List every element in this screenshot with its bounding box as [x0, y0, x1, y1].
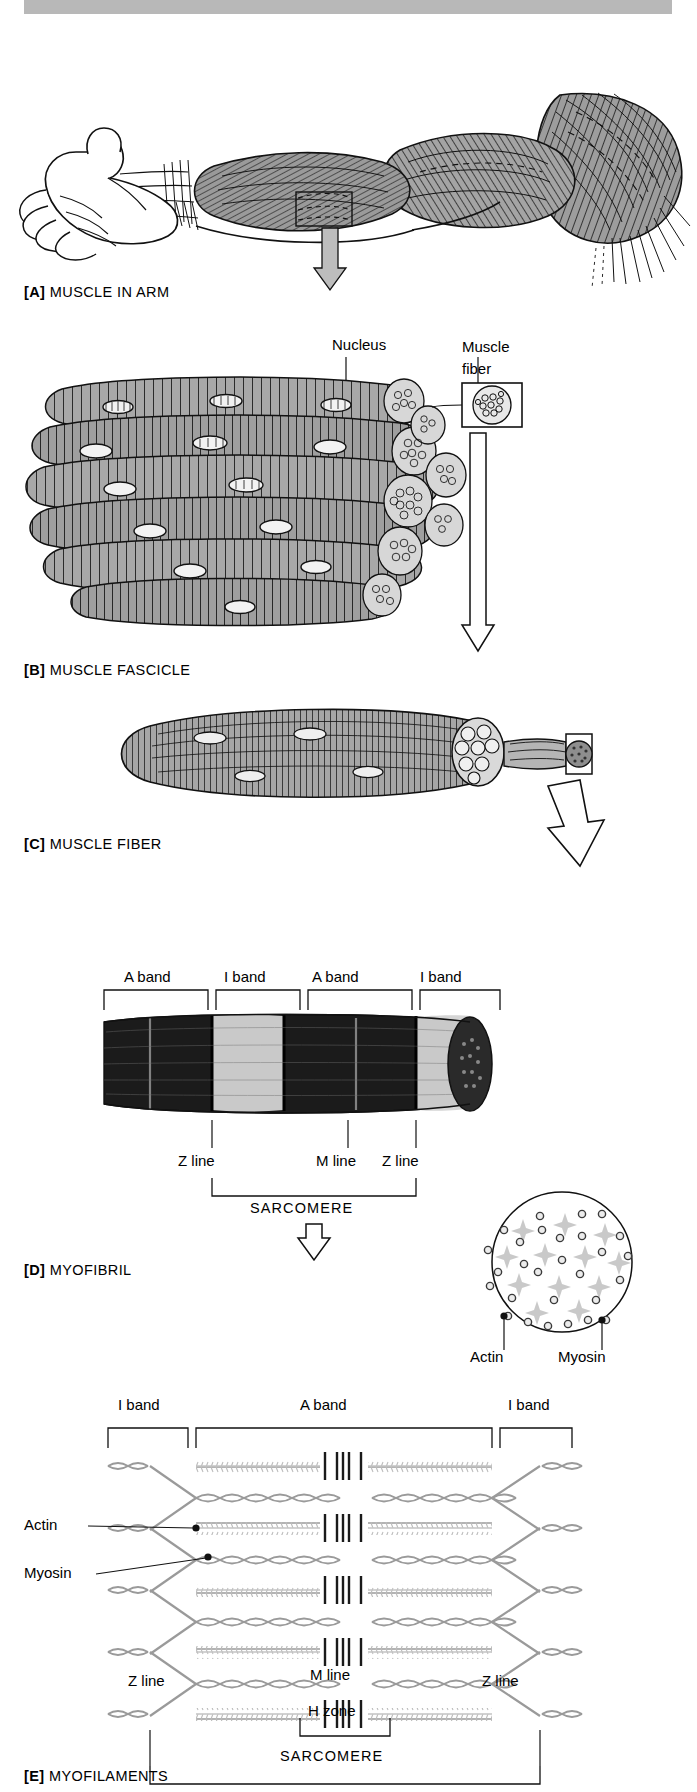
panel-a-figure: [0, 40, 697, 290]
cross-section-actin-label: Actin: [470, 1348, 503, 1365]
panel-d-sarcomere-bracket: [212, 1178, 416, 1196]
panel-d-m-line: M line: [316, 1152, 356, 1169]
panel-c-label: MUSCLE FIBER: [50, 836, 162, 852]
panel-d-figure: [0, 988, 697, 1218]
panel-e-figure: [0, 1418, 697, 1792]
panel-b-figure: [0, 355, 697, 665]
panel-e-sarcomere-label: SARCOMERE: [280, 1748, 383, 1764]
panel-d-brackets: [104, 990, 500, 1010]
panel-e-pointers: [88, 1524, 212, 1574]
panel-d-band-label-2: A band: [312, 968, 359, 985]
panel-d-band-label-0: A band: [124, 968, 171, 985]
panel-e-z-line-left: Z line: [128, 1672, 165, 1689]
cross-section-inset: [450, 1190, 697, 1360]
panel-e-brackets: [108, 1428, 572, 1448]
panel-d-sarcomere-label: SARCOMERE: [250, 1200, 353, 1216]
arrow-b-to-c: [462, 433, 494, 651]
panel-c-tag: [C]: [24, 836, 45, 852]
panel-a-label: MUSCLE IN ARM: [50, 284, 170, 300]
panel-d-label: MYOFIBRIL: [50, 1262, 132, 1278]
panel-e-actin-label: Actin: [24, 1516, 57, 1533]
panel-d-band-label-3: I band: [420, 968, 462, 985]
arrow-c-to-d: [548, 780, 604, 866]
panel-c-figure: [0, 690, 697, 920]
panel-b-label: MUSCLE FASCICLE: [50, 662, 191, 678]
panel-e-myosin-label: Myosin: [24, 1564, 72, 1581]
panel-e-band-label-0: I band: [118, 1396, 160, 1413]
panel-e-z-line-right: Z line: [482, 1672, 519, 1689]
myofibril-cylinder: [104, 1015, 492, 1114]
panel-e-h-zone-label: H zone: [308, 1702, 356, 1719]
panel-d-line-leaders: [212, 1120, 416, 1148]
panel-a-tag: [A]: [24, 284, 45, 300]
panel-d-z-line-left: Z line: [178, 1152, 215, 1169]
panel-e-sarcomere-bracket: [150, 1766, 540, 1784]
panel-e-tag: [E]: [24, 1768, 45, 1784]
panel-d-tag: [D]: [24, 1262, 45, 1278]
panel-d-z-line-right: Z line: [382, 1152, 419, 1169]
arrow-a-to-b: [314, 228, 346, 290]
arrow-d-to-e: [298, 1224, 330, 1260]
panel-e-band-label-2: I band: [508, 1396, 550, 1413]
panel-e-caption: [E] MYOFILAMENTS: [24, 1768, 168, 1784]
panel-e-label: MYOFILAMENTS: [49, 1768, 168, 1784]
panel-e-m-line-label: M line: [310, 1666, 350, 1683]
panel-c-caption: [C] MUSCLE FIBER: [24, 836, 162, 852]
actin-pointer-dot: [192, 1524, 199, 1531]
panel-d-band-label-1: I band: [224, 968, 266, 985]
panel-a-caption: [A] MUSCLE IN ARM: [24, 284, 169, 300]
panel-b-caption: [B] MUSCLE FASCICLE: [24, 662, 190, 678]
header-bar: [24, 0, 672, 14]
callout-nucleus-label: Nucleus: [332, 336, 386, 353]
panel-e-band-label-1: A band: [300, 1396, 347, 1413]
myosin-pointer-dot: [204, 1553, 211, 1560]
cross-section-myosin-label: Myosin: [558, 1348, 606, 1365]
panel-d-caption: [D] MYOFIBRIL: [24, 1262, 132, 1278]
panel-b-tag: [B]: [24, 662, 45, 678]
